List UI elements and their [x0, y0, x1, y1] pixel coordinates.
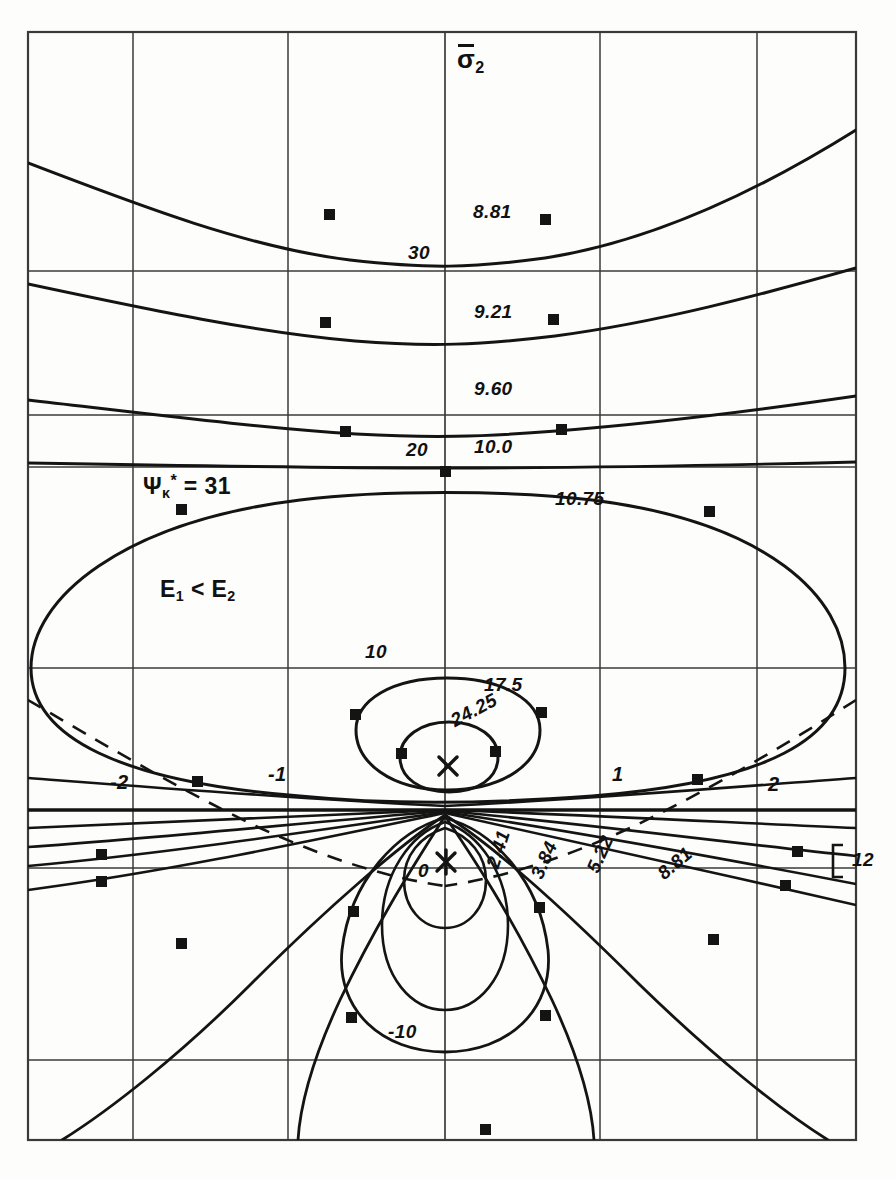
contour-label-minus-10: -10 — [388, 1022, 417, 1041]
curve-8-81-upper — [28, 130, 856, 266]
contour-chart-figure: σ2 8.81 9.21 9.60 10.0 10.75 10 17.5 24.… — [0, 0, 896, 1180]
bracket-marker — [833, 845, 843, 877]
curve-5-22-right — [445, 816, 594, 1140]
less-than-glyph: < — [191, 576, 205, 602]
x-tick-label-minus-2: -2 — [110, 772, 129, 792]
chart-title: σ2 — [457, 46, 485, 75]
psi-value: = 31 — [184, 473, 231, 499]
psi-glyph: Ψ — [143, 473, 162, 499]
e1-subscript: 1 — [176, 588, 184, 604]
focus-marker-upper — [439, 757, 457, 775]
focus-marker-lower — [437, 850, 455, 874]
curve-tick-markers — [96, 209, 803, 1135]
bracket-label-12: 12 — [852, 850, 874, 869]
e2-glyph: E — [212, 576, 228, 602]
x-tick-label-1: 1 — [612, 764, 624, 784]
x-tick-label-2: 2 — [768, 774, 780, 794]
x-tick-label-minus-1: -1 — [268, 764, 287, 784]
contour-curves — [28, 130, 856, 1140]
annotation-psi-kappa: Ψκ* = 31 — [143, 472, 231, 500]
psi-superscript-star: * — [170, 471, 177, 489]
curve-9-60 — [28, 396, 856, 436]
title-sigma-glyph: σ — [457, 46, 475, 72]
contour-label-9-60: 9.60 — [474, 379, 513, 398]
curve-8-81-lower-left — [62, 815, 445, 1140]
plot-canvas — [0, 0, 896, 1180]
contour-label-9-21: 9.21 — [474, 302, 513, 321]
annotation-energy-inequality: E1 < E2 — [160, 578, 236, 603]
gridline-label-30: 30 — [408, 243, 430, 262]
curve-9-21 — [28, 268, 856, 344]
contour-label-10-75: 10.75 — [555, 489, 605, 508]
e2-subscript: 2 — [227, 588, 235, 604]
title-subscript: 2 — [475, 58, 484, 76]
e1-glyph: E — [160, 576, 176, 602]
gridline-label-20: 20 — [406, 440, 428, 459]
contour-label-10: 10 — [365, 642, 387, 661]
contour-label-0: 0 — [418, 861, 429, 880]
contour-label-10-0: 10.0 — [474, 437, 513, 456]
contour-label-8-81-upper: 8.81 — [473, 202, 512, 221]
curve-24-25-oval — [400, 722, 498, 792]
